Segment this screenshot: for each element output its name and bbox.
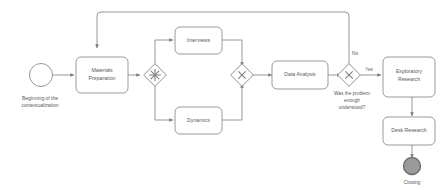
task-dynamics-label: Dynamics bbox=[187, 117, 210, 123]
end-event-label: Closing bbox=[404, 179, 421, 185]
end-event-circle bbox=[404, 158, 421, 175]
end-event[interactable]: Closing bbox=[404, 158, 421, 186]
asterisk-icon bbox=[150, 70, 161, 81]
task-interviews-label: Interviews bbox=[187, 37, 211, 43]
flow-label-no: No bbox=[352, 51, 358, 56]
flow-split-to-dynamics bbox=[155, 83, 173, 120]
gateway-decision-label-line2: enough bbox=[344, 98, 360, 103]
start-event-label-line2: contextualization bbox=[21, 102, 58, 108]
gateway-decision-label-line1: Was the problem bbox=[334, 91, 370, 96]
flow-label-yes: Yes bbox=[365, 67, 373, 72]
task-materials-preparation-label-line2: Preparation bbox=[89, 75, 116, 81]
task-materials-preparation-label-line1: Materials bbox=[91, 67, 112, 73]
flow-decision-no-loopback bbox=[97, 12, 349, 67]
task-data-analysis-label: Data Analysis bbox=[284, 71, 316, 77]
gateway-exclusive-merge[interactable] bbox=[231, 64, 254, 87]
task-dynamics[interactable]: Dynamics bbox=[175, 107, 222, 134]
start-event[interactable]: Beginning of the contextualization bbox=[21, 64, 58, 109]
task-exploratory-research-label-line2: Research bbox=[398, 76, 420, 82]
gateway-decision-label-line3: understood? bbox=[339, 105, 366, 110]
start-event-label-line1: Beginning of the bbox=[22, 95, 58, 101]
flow-dynamics-to-merge bbox=[222, 84, 242, 120]
task-desk-research[interactable]: Desk Research bbox=[383, 117, 435, 145]
task-exploratory-research[interactable]: Exploratory Research bbox=[383, 57, 435, 97]
start-event-circle bbox=[30, 64, 53, 87]
task-materials-preparation[interactable]: Materials Preparation bbox=[76, 57, 128, 93]
task-data-analysis[interactable]: Data Analysis bbox=[272, 61, 328, 89]
task-interviews[interactable]: Interviews bbox=[175, 27, 222, 54]
task-exploratory-research-label-line1: Exploratory bbox=[396, 68, 423, 74]
task-desk-research-label: Desk Research bbox=[391, 127, 427, 133]
gateway-parallel-split[interactable] bbox=[144, 64, 167, 87]
flow-interviews-to-merge bbox=[222, 40, 242, 66]
bpmn-diagram-canvas: Beginning of the contextualization Mater… bbox=[0, 0, 448, 190]
bpmn-diagram: Beginning of the contextualization Mater… bbox=[0, 0, 448, 190]
flow-split-to-interviews bbox=[155, 40, 173, 67]
